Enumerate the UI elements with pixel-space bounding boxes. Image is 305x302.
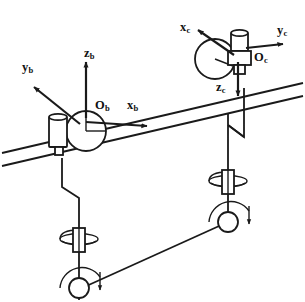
spherical-joint-carriage-c xyxy=(195,30,251,79)
x-axis-c-label: xc xyxy=(180,21,190,34)
spherical-joint-carriage-b xyxy=(49,111,106,155)
y-axis-b-label: yb xyxy=(22,61,33,74)
y-axis-c-arrow xyxy=(246,44,283,48)
origin-b-label: Ob xyxy=(95,99,109,112)
z-axis-b-label: zb xyxy=(84,47,94,60)
left-rotary-joint-upper xyxy=(60,228,98,252)
z-axis-c-label: zc xyxy=(216,81,225,94)
y-axis-c-label: yc xyxy=(277,24,287,37)
right-rotary-joint-upper xyxy=(209,170,247,194)
origin-c-label: Oc xyxy=(254,51,268,64)
diagram-canvas xyxy=(0,0,305,302)
kinematic-diagram: zb yb xb Ob xc yc Oc zc xyxy=(0,0,305,302)
carriage-b-cylinder xyxy=(49,114,67,155)
lower-coupler-link xyxy=(82,222,228,288)
x-axis-b-label: xb xyxy=(127,99,138,112)
inclined-guide-rail xyxy=(2,83,303,166)
